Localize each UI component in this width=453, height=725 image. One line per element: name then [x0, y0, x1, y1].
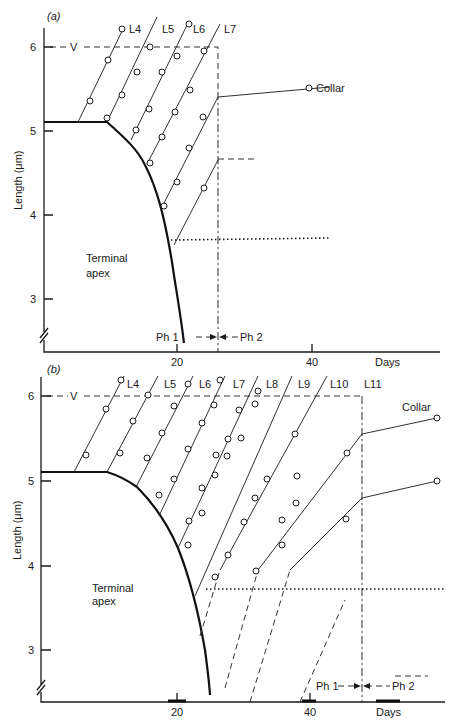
leaf-label-L9: L9 — [298, 378, 310, 390]
ytick-4: 4 — [30, 209, 36, 221]
leaf-line-L4 — [78, 27, 124, 122]
leaf-line-L6 — [131, 23, 188, 140]
ytick-5: 5 — [30, 125, 36, 137]
v-label: V — [70, 390, 78, 402]
ytick-4: 4 — [28, 560, 34, 572]
collar-label: Collar — [402, 401, 431, 413]
leaf-line-L10 — [220, 376, 327, 570]
collar-label: Collar — [316, 82, 345, 94]
panel-b-label: (b) — [47, 363, 61, 375]
leaf-label-L7: L7 — [224, 23, 236, 35]
y-axis-label: Length (μm) — [12, 150, 24, 210]
apex-label: apex — [86, 267, 110, 279]
xtick-40: 40 — [304, 706, 316, 718]
ph1-label: Ph 1 — [316, 680, 339, 692]
leaf-line-L12-collar — [290, 481, 437, 570]
dotted-level — [171, 238, 330, 240]
x-axis-label: Days — [375, 356, 401, 368]
xtick-20: 20 — [171, 356, 183, 368]
xtick-20: 20 — [171, 706, 183, 718]
ytick-5: 5 — [28, 475, 34, 487]
leaf-label-L4: L4 — [129, 23, 141, 35]
ph2-label: Ph 2 — [240, 331, 263, 343]
ytick-6: 6 — [30, 41, 36, 53]
ytick-6: 6 — [28, 390, 34, 402]
leaf-line-L7 — [159, 376, 225, 516]
ph2-label: Ph 2 — [392, 680, 415, 692]
leaf-label-L4: L4 — [127, 378, 139, 390]
leaf-label-L6: L6 — [193, 23, 205, 35]
panel-b-points — [83, 377, 440, 580]
panel-a-points — [87, 21, 312, 209]
terminal-apex-curve — [44, 122, 184, 343]
ytick-3: 3 — [30, 293, 36, 305]
apex-label: apex — [92, 595, 116, 607]
ph1-label: Ph 1 — [156, 331, 179, 343]
leaf-line-L4 — [74, 376, 124, 472]
leaf-label-L6: L6 — [199, 378, 211, 390]
leaf-label-L10: L10 — [330, 378, 348, 390]
xtick-40: 40 — [306, 356, 318, 368]
leaf-line-L7 — [147, 24, 220, 164]
panel-a-label: (a) — [47, 10, 61, 22]
leaf-label-L5: L5 — [162, 23, 174, 35]
panel-a: (a) 6 5 4 3 Length (μm) 20 40 Days V Ter… — [12, 10, 440, 368]
terminal-label: Terminal — [92, 582, 134, 594]
leaf-label-L11: L11 — [364, 378, 382, 390]
leaf-label-L7: L7 — [233, 378, 245, 390]
leaf-line-L11-collar — [258, 418, 437, 570]
v-level-line — [50, 47, 218, 92]
y-axis-label: Length (μm) — [11, 500, 23, 560]
terminal-label: Terminal — [86, 252, 128, 264]
leaf-line-L9 — [174, 160, 218, 245]
leaf-label-L8: L8 — [266, 378, 278, 390]
x-axis-label: Days — [376, 706, 402, 718]
panel-b-xticks — [177, 693, 310, 702]
v-label: V — [70, 41, 78, 53]
panel-a-xticks — [177, 344, 312, 352]
leaf-growth-figure: (a) 6 5 4 3 Length (μm) 20 40 Days V Ter… — [0, 0, 453, 725]
panel-b: (b) 6 5 4 3 Length (μm) 20 40 Days V Ter… — [11, 363, 445, 718]
ytick-3: 3 — [28, 644, 34, 656]
panel-a-yticks — [44, 47, 53, 299]
panel-b-yticks — [41, 396, 51, 650]
leaf-label-L5: L5 — [164, 378, 176, 390]
